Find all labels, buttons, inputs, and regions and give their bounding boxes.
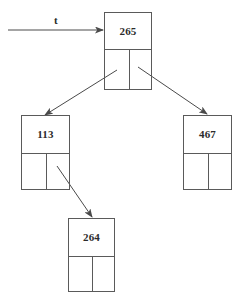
node-key-right-child: 467 (184, 116, 231, 153)
tree-diagram-canvas: t 265 113 467 264 (0, 0, 248, 304)
node-divider-vertical (92, 256, 93, 291)
tree-node-right-child[interactable]: 467 (183, 115, 232, 190)
node-divider-horizontal (105, 49, 151, 50)
node-key-left-child: 113 (22, 116, 69, 153)
tree-node-left-child[interactable]: 113 (21, 115, 70, 190)
tree-node-leaf[interactable]: 264 (68, 218, 115, 292)
pointer-label-t: t (54, 15, 58, 26)
node-divider-vertical (46, 153, 47, 189)
tree-node-root[interactable]: 265 (104, 12, 152, 90)
node-key-leaf: 264 (69, 219, 114, 256)
node-divider-vertical (208, 153, 209, 189)
node-key-root: 265 (105, 13, 151, 49)
node-divider-vertical (129, 49, 130, 89)
